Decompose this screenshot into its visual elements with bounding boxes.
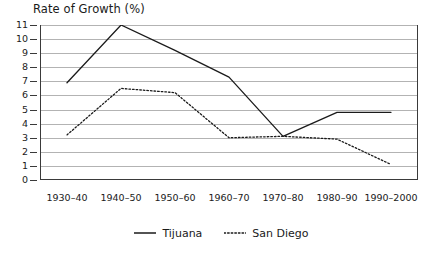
y-tick-label: 4 — [22, 119, 28, 129]
legend-item-san-diego: San Diego — [224, 227, 308, 240]
y-tick-label: 1 — [22, 161, 28, 171]
series-line-tijuana — [67, 25, 391, 136]
y-tick-mark — [30, 166, 37, 167]
y-axis-labels: 01234567891011 — [0, 25, 34, 180]
y-tick-label: 9 — [22, 48, 28, 58]
y-tick-mark — [30, 53, 37, 54]
x-tick-label: 1960–70 — [208, 192, 249, 204]
series-lines — [67, 25, 391, 165]
y-tick-label: 7 — [22, 76, 28, 86]
y-tick-label: 3 — [22, 133, 28, 143]
y-tick-mark — [30, 25, 37, 26]
chart-title: Rate of Growth (%) — [33, 2, 145, 16]
x-tick-label: 1980–90 — [316, 192, 357, 204]
y-tick-mark — [30, 39, 37, 40]
series-line-san-diego — [67, 88, 391, 164]
x-axis-labels: 1930–401940–501950–601960–701970–801980–… — [40, 192, 418, 208]
y-tick-mark — [30, 124, 37, 125]
y-tick-label: 6 — [22, 90, 28, 100]
y-tick-mark — [30, 110, 37, 111]
gridlines — [40, 26, 418, 181]
y-tick-label: 2 — [22, 147, 28, 157]
y-tick-mark — [30, 81, 37, 82]
y-tick-label: 11 — [16, 20, 28, 30]
y-tick-label: 8 — [22, 62, 28, 72]
legend-label: San Diego — [252, 227, 308, 240]
legend-item-tijuana: Tijuana — [134, 227, 202, 240]
plot-svg — [40, 25, 418, 180]
x-tick-label: 1930–40 — [46, 192, 87, 204]
y-tick-label: 5 — [22, 105, 28, 115]
y-tick-mark — [30, 95, 37, 96]
growth-rate-line-chart: Rate of Growth (%) 01234567891011 1930–4… — [0, 0, 443, 253]
x-tick-label: 1970–80 — [262, 192, 303, 204]
plot-area — [40, 25, 418, 180]
legend-solid-line-icon — [134, 229, 156, 237]
y-tick-mark — [30, 138, 37, 139]
y-tick-label: 0 — [22, 175, 28, 185]
y-tick-mark — [30, 152, 37, 153]
y-tick-label: 10 — [16, 34, 28, 44]
y-tick-mark — [30, 67, 37, 68]
y-tick-mark — [30, 180, 37, 181]
legend-label: Tijuana — [162, 227, 202, 240]
legend-dotted-line-icon — [224, 229, 246, 237]
x-tick-label: 1940–50 — [100, 192, 141, 204]
chart-legend: TijuanaSan Diego — [0, 222, 443, 244]
x-tick-label: 1990–2000 — [364, 192, 417, 204]
x-tick-label: 1950–60 — [154, 192, 195, 204]
